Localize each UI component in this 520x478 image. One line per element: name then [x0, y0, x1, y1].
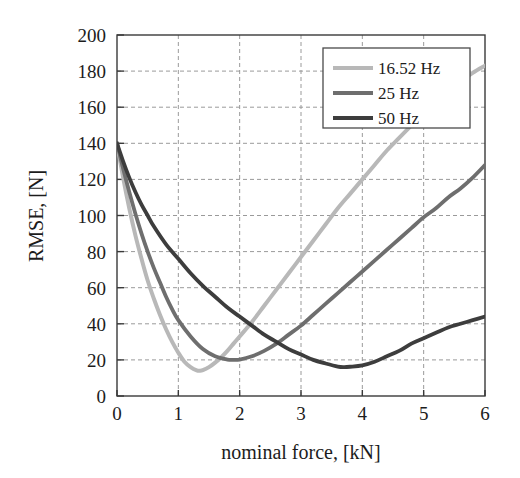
x-axis-title: nominal force, [kN] [221, 441, 380, 463]
x-tick-label: 4 [358, 403, 368, 424]
y-tick-label: 180 [78, 61, 107, 82]
y-tick-label: 200 [78, 25, 107, 46]
chart-legend[interactable]: 16.52 Hz25 Hz50 Hz [323, 48, 470, 128]
y-tick-label: 160 [78, 97, 107, 118]
x-tick-label: 1 [174, 403, 184, 424]
rmse-vs-nominal-force-chart: 0123456020406080100120140160180200 16.52… [0, 0, 520, 478]
y-tick-label: 40 [87, 314, 106, 335]
x-tick-label: 3 [296, 403, 306, 424]
legend-label-0: 16.52 Hz [378, 59, 441, 78]
legend-label-2: 50 Hz [378, 109, 420, 128]
y-axis-title: RMSE, [N] [25, 170, 47, 262]
y-tick-label: 0 [97, 386, 107, 407]
y-tick-label: 60 [87, 278, 106, 299]
legend-label-1: 25 Hz [378, 84, 420, 103]
x-tick-label: 5 [419, 403, 429, 424]
y-tick-label: 140 [78, 133, 107, 154]
chart-figure: 0123456020406080100120140160180200 16.52… [0, 0, 520, 478]
y-tick-label: 20 [87, 350, 106, 371]
y-tick-label: 80 [87, 242, 106, 263]
y-tick-label: 120 [78, 169, 107, 190]
x-tick-label: 0 [112, 403, 122, 424]
y-tick-label: 100 [78, 206, 107, 227]
x-tick-label: 2 [235, 403, 245, 424]
x-tick-label: 6 [480, 403, 490, 424]
